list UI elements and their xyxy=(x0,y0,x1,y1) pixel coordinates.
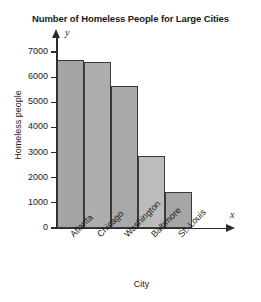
x-axis-variable-label: x xyxy=(230,209,234,220)
bar xyxy=(57,60,84,228)
y-axis-tick-label: 5000 xyxy=(2,96,48,106)
y-axis-tick-label: 4000 xyxy=(2,121,48,131)
y-axis-tick-label: 1000 xyxy=(2,197,48,207)
chart-figure: Number of Homeless People for Large Citi… xyxy=(0,0,261,302)
y-axis-tick-label: 2000 xyxy=(2,172,48,182)
y-axis-tick-label: 6000 xyxy=(2,71,48,81)
bar xyxy=(84,62,111,228)
plot-area: y x 01000200030004000500060007000 Atlant… xyxy=(0,0,261,302)
y-axis-variable-label: y xyxy=(65,27,69,38)
y-axis-tick-label: 0 xyxy=(2,222,48,232)
x-axis-arrow-icon xyxy=(226,224,235,232)
y-axis-title: Homeless people xyxy=(13,65,23,185)
x-axis-title: City xyxy=(56,279,227,289)
y-axis-tick xyxy=(51,51,57,52)
bar xyxy=(111,86,138,228)
y-axis-arrow-icon xyxy=(52,29,60,38)
y-axis-tick-label: 3000 xyxy=(2,147,48,157)
y-axis-tick-label: 7000 xyxy=(2,46,48,56)
